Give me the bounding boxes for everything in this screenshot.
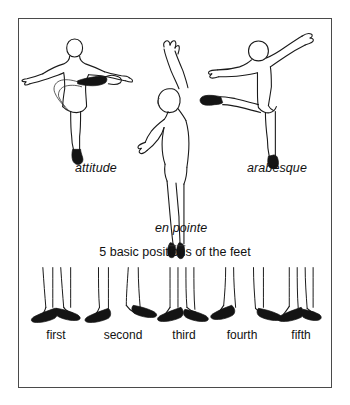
foot-position-second-artwork — [85, 268, 157, 323]
feet-section-heading: 5 basic positions of the feet — [0, 245, 350, 259]
attitude-figure — [22, 39, 133, 164]
foot-position-label-fifth: fifth — [276, 328, 326, 342]
foot-position-fifth-artwork — [278, 268, 321, 322]
arabesque-figure — [200, 34, 313, 169]
foot-position-label-first: first — [28, 328, 84, 342]
ballet-positions-illustration: attitude en pointe arabesque 5 basic pos… — [0, 0, 350, 405]
foot-position-label-second: second — [90, 328, 156, 342]
foot-position-label-fourth: fourth — [212, 328, 272, 342]
foot-position-fourth-artwork — [211, 268, 282, 321]
pose-label-en-pointe: en pointe — [155, 221, 207, 235]
pose-label-arabesque: arabesque — [247, 161, 307, 175]
foot-position-third-artwork — [158, 268, 209, 322]
foot-position-label-third: third — [158, 328, 210, 342]
pose-label-attitude: attitude — [75, 161, 117, 175]
foot-position-first-artwork — [31, 268, 80, 323]
